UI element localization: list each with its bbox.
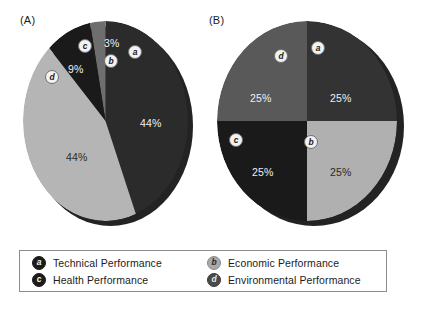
- figure-pie-charts: (A) 44% 3% 9% 44% a b c d (B): [0, 0, 421, 312]
- pie-a-marker-a: a: [128, 45, 142, 59]
- legend-label-technical-performance: Technical Performance: [53, 257, 162, 269]
- pie-b-svg: [217, 21, 397, 221]
- legend-item-economic-performance: b Economic Performance: [207, 256, 376, 270]
- pie-b-marker-c: c: [229, 133, 243, 147]
- legend-item-technical-performance: a Technical Performance: [32, 256, 201, 270]
- legend: a Technical Performance b Economic Perfo…: [19, 250, 387, 292]
- pie-b-slice-a: [307, 21, 397, 121]
- pie-a-marker-c: c: [78, 39, 92, 53]
- legend-label-health-performance: Health Performance: [53, 274, 148, 286]
- pie-a-marker-d: d: [45, 70, 59, 84]
- legend-label-economic-performance: Economic Performance: [228, 257, 339, 269]
- pie-a-value-d: 44%: [66, 151, 88, 163]
- pie-b-value-d: 25%: [250, 92, 272, 104]
- pie-b-value-c: 25%: [252, 166, 274, 178]
- legend-item-health-performance: c Health Performance: [32, 273, 201, 287]
- pie-b-marker-b: b: [304, 135, 318, 149]
- legend-marker-a-icon: a: [32, 256, 46, 270]
- pie-a-svg: [23, 21, 188, 221]
- pie-chart-a: 44% 3% 9% 44% a b c d: [18, 18, 196, 230]
- pie-b-value-a: 25%: [330, 92, 352, 104]
- pie-chart-b: 25% 25% 25% 25% a b c d: [212, 18, 408, 230]
- pie-a-marker-b: b: [104, 54, 118, 68]
- pie-b-value-b: 25%: [330, 166, 352, 178]
- pie-a-value-c: 9%: [68, 63, 84, 75]
- pie-b-slice-d: [217, 21, 307, 121]
- pie-b-disc: [217, 21, 397, 221]
- legend-label-environmental-performance: Environmental Performance: [228, 274, 361, 286]
- pie-b-slice-b: [307, 121, 397, 221]
- legend-item-environmental-performance: d Environmental Performance: [207, 273, 376, 287]
- pie-b-marker-a: a: [311, 41, 325, 55]
- pie-a-disc: [23, 21, 188, 221]
- legend-marker-b-icon: b: [207, 256, 221, 270]
- pie-a-value-a: 44%: [140, 117, 162, 129]
- legend-marker-d-icon: d: [207, 273, 221, 287]
- legend-marker-c-icon: c: [32, 273, 46, 287]
- pie-b-marker-d: d: [274, 49, 288, 63]
- pie-a-value-b: 3%: [104, 37, 120, 49]
